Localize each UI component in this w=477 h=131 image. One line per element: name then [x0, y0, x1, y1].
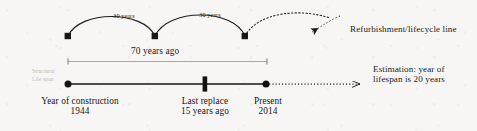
marker-label-present: Present 2014: [240, 96, 296, 117]
estimation-line2: lifespan is 20 years: [373, 74, 445, 84]
structural-lifespan-axis-label: Structural Life span: [32, 68, 55, 84]
timeline-marker-present: [263, 81, 270, 88]
structural-lifespan-line2: Life span: [32, 76, 55, 84]
timeline-marker-last-replace: [203, 76, 208, 91]
construction-year: 1944: [20, 106, 140, 116]
construction-title: Year of construction: [20, 96, 140, 106]
main-timeline-axis: [65, 76, 361, 91]
estimation-line1: Estimation: year of: [373, 64, 445, 74]
lifecycle-arc-3-projected: [245, 13, 330, 36]
refurbishment-callout-leader: [312, 16, 340, 32]
last-replace-title: Last replace: [163, 96, 247, 106]
span-label-70-years: 70 years ago: [131, 46, 179, 56]
lifecycle-nodes: [65, 33, 248, 39]
last-replace-detail: 15 years ago: [163, 106, 247, 116]
node-construction: [65, 33, 71, 39]
marker-label-year-of-construction: Year of construction 1944: [20, 96, 140, 117]
refurbishment-callout-label: Refurbishment/lifecycle line: [350, 24, 457, 34]
node-last-replace: [242, 33, 248, 39]
arc-label-2: 30 years: [182, 12, 238, 19]
present-title: Present: [240, 96, 296, 106]
structural-lifespan-line1: Structural: [32, 68, 55, 76]
node-first-refurbishment: [152, 33, 158, 39]
figure-canvas: 30 years 30 years Refurbishment/lifecycl…: [0, 0, 477, 131]
span-measure-70-years: [68, 58, 267, 64]
arc-label-1: 30 years: [96, 13, 152, 20]
timeline-marker-construction: [65, 81, 72, 88]
present-year: 2014: [240, 106, 296, 116]
marker-label-last-replace: Last replace 15 years ago: [163, 96, 247, 117]
estimation-note: Estimation: year of lifespan is 20 years: [373, 64, 445, 84]
